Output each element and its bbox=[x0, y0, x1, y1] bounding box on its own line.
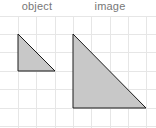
grid-diagram bbox=[0, 0, 156, 128]
